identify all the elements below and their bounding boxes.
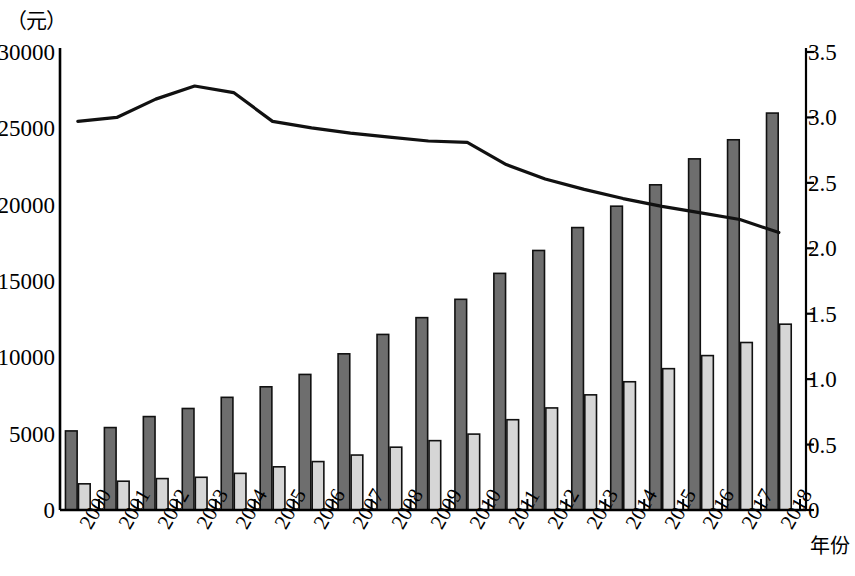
bar-light	[624, 382, 636, 510]
bar-light	[741, 343, 753, 511]
line-series-path	[78, 86, 779, 233]
bar-dark	[455, 299, 467, 510]
bar-dark	[494, 273, 506, 510]
bar-dark	[299, 374, 311, 510]
bar-dark	[650, 185, 662, 510]
bar-light	[702, 356, 714, 510]
bar-dark	[728, 140, 740, 510]
bar-dark	[65, 431, 77, 510]
bars-group	[65, 113, 791, 510]
x-axis-title: 年份	[810, 530, 850, 559]
bar-light	[585, 395, 597, 510]
bar-light	[663, 369, 675, 510]
bar-dark	[767, 113, 779, 510]
bar-dark	[338, 354, 350, 510]
bar-light	[546, 408, 558, 510]
bar-dark	[416, 318, 428, 510]
bar-dark	[611, 206, 623, 510]
chart-container: （元） 050001000015000200002500030000 00.51…	[0, 0, 855, 576]
bar-dark	[572, 228, 584, 510]
bar-dark	[533, 250, 545, 510]
bar-dark	[377, 334, 389, 510]
bar-light	[780, 324, 792, 510]
